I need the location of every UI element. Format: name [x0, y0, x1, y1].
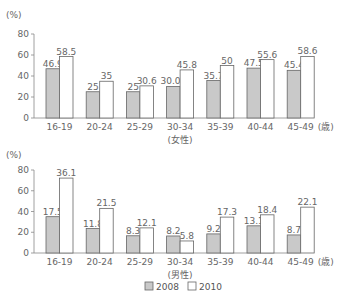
y-tick-label: 40 [18, 71, 30, 81]
category-label: 20-24 [87, 257, 113, 267]
female-chart: (%)02040608046.958.516-19253520-242530.6… [6, 10, 334, 145]
y-unit-label: (%) [6, 150, 22, 160]
category-label: 45-49 [288, 122, 314, 132]
bar-2010-25-29 [140, 228, 154, 253]
bar-2010-30-34 [180, 241, 194, 253]
bar-2008-16-19 [46, 217, 60, 253]
category-label: 40-44 [247, 122, 273, 132]
bar-2008-40-44 [247, 68, 261, 118]
bar-2008-30-34 [167, 236, 181, 253]
bar-2008-35-39 [207, 81, 221, 118]
value-label: 12.1 [137, 218, 157, 228]
bar-2010-25-29 [140, 86, 154, 118]
bar-2008-45-49 [287, 70, 301, 118]
value-label: 18.4 [257, 205, 277, 215]
y-tick-label: 40 [18, 207, 30, 217]
chart-subtitle: (女性) [168, 134, 193, 145]
bar-2010-20-24 [100, 208, 114, 253]
value-label: 17.3 [217, 207, 237, 217]
y-tick-label: 60 [18, 50, 30, 60]
value-label: 55.6 [257, 50, 277, 60]
y-tick-label: 20 [18, 227, 30, 237]
value-label: 21.5 [96, 198, 116, 208]
legend: 2008 2010 [145, 282, 222, 292]
value-label: 58.5 [56, 47, 76, 57]
y-tick-label: 60 [18, 186, 30, 196]
category-label: 20-24 [87, 122, 113, 132]
bar-2008-45-49 [287, 235, 301, 253]
legend-label-2008: 2008 [156, 282, 179, 292]
category-label: 40-44 [247, 257, 273, 267]
category-label: 30-34 [167, 257, 193, 267]
bar-2008-30-34 [167, 86, 181, 118]
category-label: 25-29 [127, 257, 153, 267]
category-label: 16-19 [46, 122, 72, 132]
y-unit-label: (%) [6, 10, 22, 20]
bar-2008-20-24 [86, 229, 100, 253]
value-label: 8.2 [166, 226, 180, 236]
value-label: 9.2 [206, 224, 220, 234]
value-label: 50 [221, 56, 233, 66]
value-label: 36.1 [56, 168, 76, 178]
x-unit-label: (歳) [318, 121, 334, 132]
bar-2010-35-39 [220, 66, 234, 119]
category-label: 30-34 [167, 122, 193, 132]
y-tick-label: 80 [18, 165, 30, 175]
y-tick-label: 80 [18, 29, 30, 39]
category-label: 25-29 [127, 122, 153, 132]
x-unit-label: (歳) [318, 256, 334, 267]
male-chart: (%)02040608017.536.116-1911.821.520-248.… [6, 150, 334, 280]
bar-2008-40-44 [247, 226, 261, 253]
category-label: 16-19 [46, 257, 72, 267]
value-label: 5.8 [180, 231, 195, 241]
bar-2010-40-44 [261, 60, 275, 118]
category-label: 45-49 [288, 257, 314, 267]
bar-2010-16-19 [60, 178, 74, 253]
legend-swatch-2008 [145, 282, 153, 290]
bar-2008-20-24 [86, 92, 100, 118]
bar-2010-35-39 [220, 217, 234, 253]
value-label: 45.8 [177, 60, 197, 70]
bar-2010-30-34 [180, 70, 194, 118]
value-label: 30.6 [137, 76, 157, 86]
bar-2010-40-44 [261, 215, 275, 253]
category-label: 35-39 [207, 257, 233, 267]
chart-canvas: (%)02040608046.958.516-19253520-242530.6… [0, 0, 349, 298]
bar-2008-25-29 [126, 92, 139, 118]
y-tick-label: 0 [23, 113, 29, 123]
legend-swatch-2010 [188, 282, 196, 290]
bar-2008-35-39 [207, 234, 221, 253]
value-label: 58.6 [297, 46, 317, 56]
bar-2010-20-24 [100, 81, 114, 118]
value-label: 22.1 [297, 197, 317, 207]
bar-2010-16-19 [60, 57, 74, 118]
y-tick-label: 20 [18, 92, 30, 102]
value-label: 25 [87, 82, 98, 92]
bar-2010-45-49 [301, 56, 315, 118]
bar-2010-45-49 [301, 207, 315, 253]
value-label: 8.7 [287, 225, 301, 235]
bar-2008-25-29 [126, 236, 139, 253]
y-tick-label: 0 [23, 248, 29, 258]
category-label: 35-39 [207, 122, 233, 132]
value-label: 35 [101, 71, 112, 81]
chart-subtitle: (男性) [168, 269, 193, 280]
bar-2008-16-19 [46, 69, 60, 118]
legend-label-2010: 2010 [199, 282, 222, 292]
